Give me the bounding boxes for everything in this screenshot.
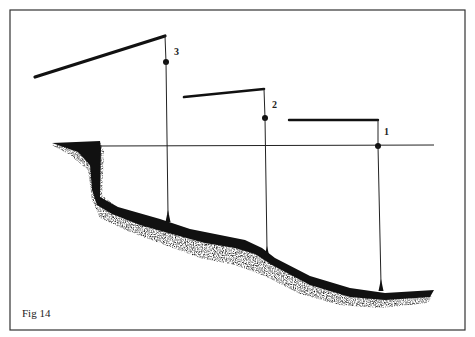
- surface-line: [100, 145, 434, 146]
- marker-label-3: 3: [174, 46, 179, 57]
- plumb-weight-1: [379, 279, 384, 291]
- plumb-weight-3: [166, 210, 171, 222]
- figure-frame: [10, 10, 465, 330]
- marker-label-1: 1: [384, 126, 389, 137]
- figure-caption: Fig 14: [22, 307, 50, 319]
- offset-line-2: [184, 89, 264, 97]
- seabed-stipple: [52, 143, 432, 308]
- marker-label-2: 2: [272, 99, 277, 110]
- diagram-canvas: 3 2 1: [0, 0, 475, 337]
- offset-line-3: [35, 36, 165, 77]
- sounding-3: 3: [35, 36, 179, 222]
